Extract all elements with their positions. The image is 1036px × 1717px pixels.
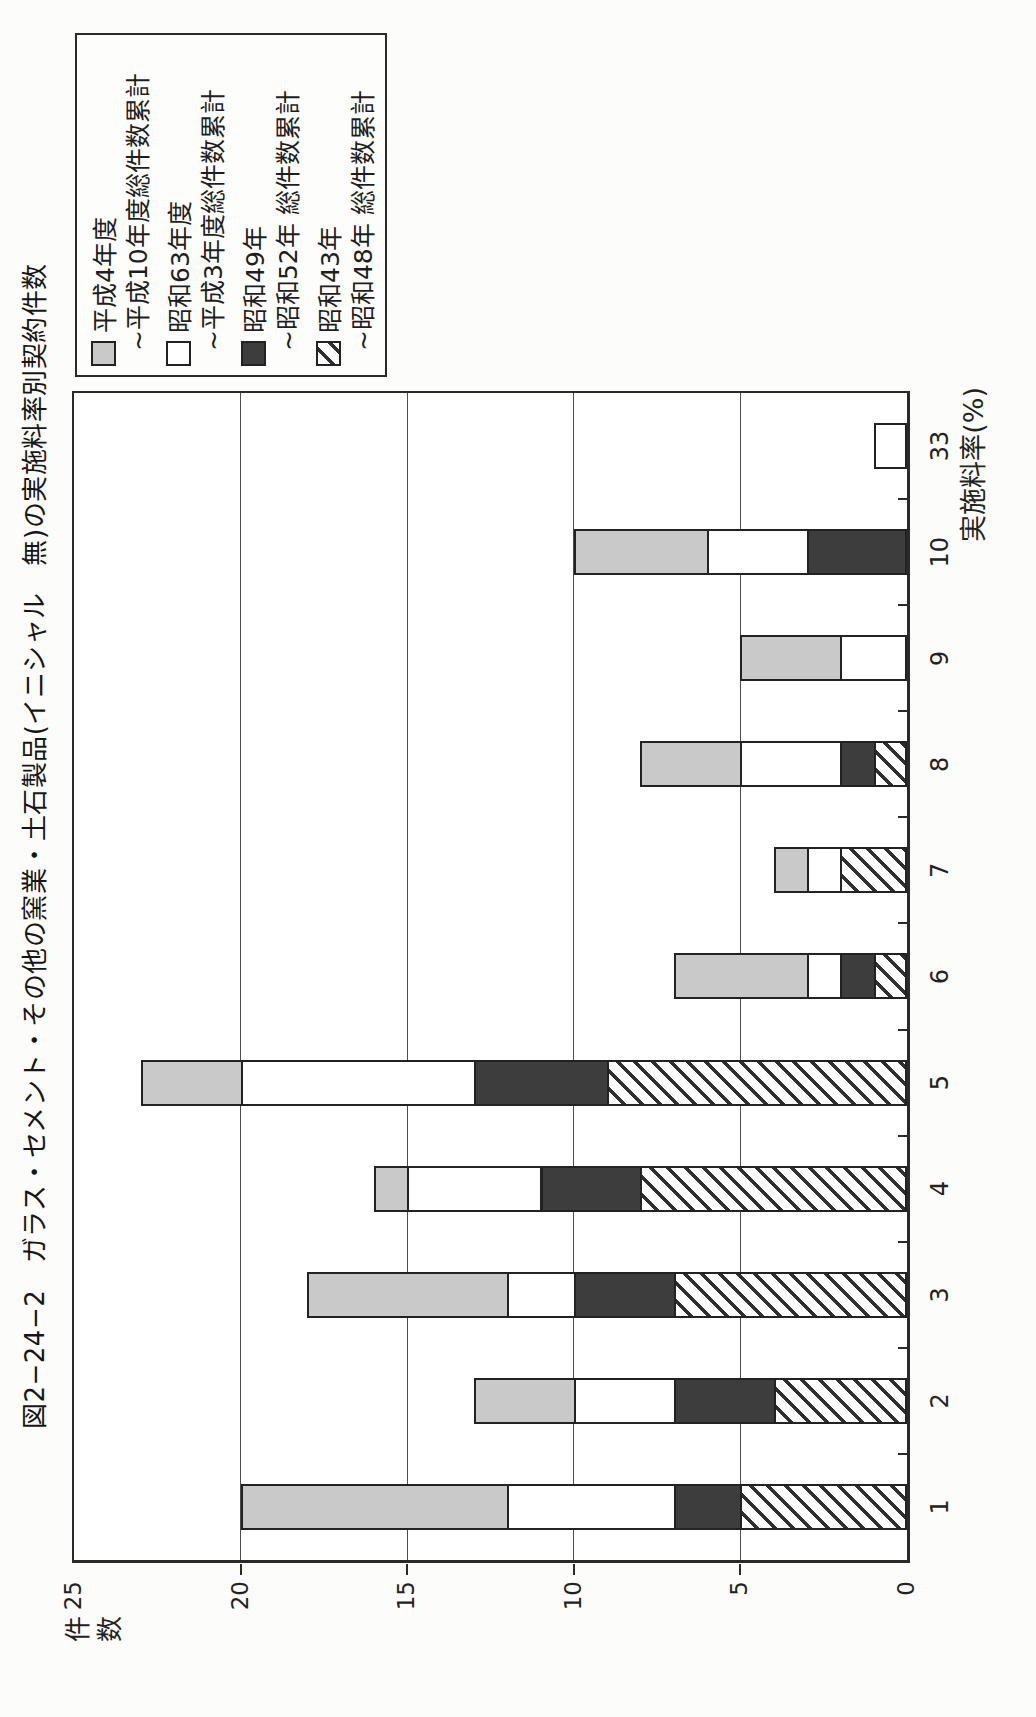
category-label: 7: [926, 830, 954, 910]
category-label: 8: [926, 724, 954, 804]
legend-swatch-hatch: [316, 341, 341, 366]
y-axis-tick: [406, 1564, 408, 1575]
x-axis-title: 実施料率(%): [952, 387, 991, 687]
bar-segment: [474, 1060, 609, 1106]
category-boundary-tick: [898, 710, 907, 712]
bar-segment: [840, 741, 875, 787]
y-tick-label: 25: [60, 1581, 86, 1627]
category-boundary-tick: [898, 1029, 907, 1031]
legend-label-line2: ~昭和48年 総件数累計: [346, 39, 382, 351]
legend-entry: 平成4年度~平成10年度総件数累計: [85, 39, 157, 366]
legend-entry-line1: 昭和49年: [235, 39, 271, 366]
bar-segment: [774, 1378, 907, 1424]
bar-segment: [874, 954, 907, 1000]
bar-segment: [707, 529, 809, 575]
legend-entry: 昭和43年~昭和48年 総件数累計: [310, 39, 382, 366]
bar-segment: [574, 1272, 676, 1318]
legend-label-line1: 昭和49年: [235, 226, 271, 333]
y-tick-label: 20: [227, 1581, 253, 1627]
bar-segment: [141, 1060, 243, 1106]
bar-segment: [807, 847, 842, 893]
bar-segment: [407, 1166, 542, 1212]
bar-segment: [840, 635, 907, 681]
y-axis-tick: [240, 1564, 242, 1575]
legend-swatch-gray: [91, 341, 116, 366]
bar-segment: [307, 1272, 509, 1318]
category-boundary-tick: [898, 1135, 907, 1137]
y-tick-label: 10: [560, 1581, 586, 1627]
page: 図2−24−2 ガラス・セメント・その他の窯業・土石製品(イニシャル 無)の実施…: [0, 0, 1036, 1717]
category-boundary-tick: [898, 1241, 907, 1243]
category-label: 33: [926, 406, 954, 486]
category-label: 6: [926, 937, 954, 1017]
category-label: 1: [926, 1467, 954, 1547]
category-label: 10: [926, 512, 954, 592]
category-label: 4: [926, 1149, 954, 1229]
bar-segment: [241, 1484, 510, 1530]
bar-segment: [807, 529, 907, 575]
legend-label-line2: ~昭和52年 総件数累計: [271, 39, 307, 351]
bar-segment: [507, 1484, 676, 1530]
bar-segment: [740, 1484, 907, 1530]
bar-segment: [874, 423, 907, 469]
legend-box: 平成4年度~平成10年度総件数累計昭和63年度~平成3年度総件数累計昭和49年~…: [75, 33, 387, 377]
y-axis-tick: [573, 1564, 575, 1575]
category-label: 2: [926, 1361, 954, 1441]
legend-label-line1: 昭和63年度: [160, 201, 196, 333]
category-boundary-tick: [898, 498, 907, 500]
legend-label-line1: 平成4年度: [85, 217, 121, 333]
legend-entry-line1: 昭和43年: [310, 39, 346, 366]
bar-segment: [474, 1378, 576, 1424]
bar-segment: [674, 1484, 743, 1530]
bar-segment: [774, 847, 809, 893]
y-axis-tick: [739, 1564, 741, 1575]
legend-label-line2: ~平成10年度総件数累計: [121, 39, 157, 351]
category-boundary-tick: [898, 1347, 907, 1349]
category-boundary-tick: [898, 604, 907, 606]
bar-segment: [574, 1378, 676, 1424]
category-boundary-tick: [898, 922, 907, 924]
bar-segment: [740, 635, 842, 681]
y-tick-label: 15: [393, 1581, 419, 1627]
y-tick-label: 0: [893, 1581, 919, 1627]
legend-entry-line1: 昭和63年度: [160, 39, 196, 366]
bar-segment: [674, 954, 809, 1000]
bar-segment: [674, 1272, 907, 1318]
category-label: 3: [926, 1255, 954, 1335]
bar-segment: [241, 1060, 476, 1106]
legend-entry: 昭和63年度~平成3年度総件数累計: [160, 39, 232, 366]
bar-segment: [640, 741, 742, 787]
category-label: 9: [926, 618, 954, 698]
bar-segment: [840, 847, 907, 893]
legend-swatch-white: [166, 341, 191, 366]
bar-segment: [541, 1166, 643, 1212]
gridline: [407, 393, 408, 1560]
bar-segment: [574, 529, 709, 575]
bar-segment: [374, 1166, 409, 1212]
legend-entry: 昭和49年~昭和52年 総件数累計: [235, 39, 307, 366]
gridline: [240, 393, 241, 1560]
legend-label-line1: 昭和43年: [310, 226, 346, 333]
category-boundary-tick: [898, 816, 907, 818]
bar-segment: [507, 1272, 576, 1318]
bar-segment: [740, 741, 842, 787]
category-boundary-tick: [898, 1453, 907, 1455]
bar-segment: [607, 1060, 907, 1106]
legend-entry-line1: 平成4年度: [85, 39, 121, 366]
y-tick-label: 5: [726, 1581, 752, 1627]
bar-segment: [840, 954, 875, 1000]
bar-segment: [874, 741, 907, 787]
bar-segment: [674, 1378, 776, 1424]
legend-swatch-dark: [241, 341, 266, 366]
plot-area: [72, 391, 910, 1563]
legend-label-line2: ~平成3年度総件数累計: [196, 39, 232, 351]
bar-segment: [640, 1166, 907, 1212]
bar-segment: [807, 954, 842, 1000]
chart-canvas: 図2−24−2 ガラス・セメント・その他の窯業・土石製品(イニシャル 無)の実施…: [0, 0, 1036, 1717]
category-label: 5: [926, 1043, 954, 1123]
chart-title: 図2−24−2 ガラス・セメント・その他の窯業・土石製品(イニシャル 無)の実施…: [14, 263, 51, 1429]
